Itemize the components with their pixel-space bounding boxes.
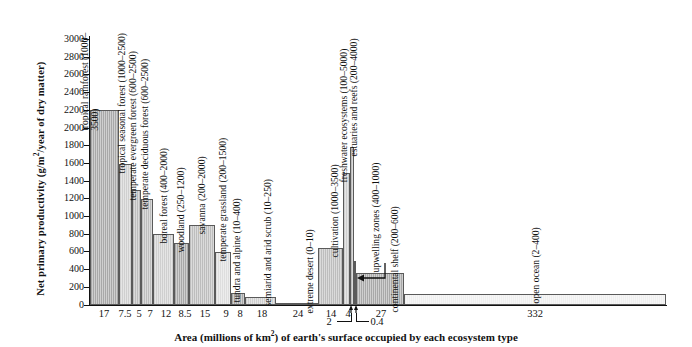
bar-label-tropical-seasonal-forest: tropical seasonal forest (1000–2500) — [117, 33, 127, 173]
x-tick-label-18: 18 — [257, 308, 268, 320]
x-axis-title-tail: ) of earth's surface occupied by each ec… — [275, 331, 518, 343]
bar-label-upwelling-zones: upwelling zones (400–1000) — [371, 163, 381, 273]
bar-temperate-deciduous-forest[interactable] — [141, 199, 153, 305]
callout-leader-horizontal-0-4 — [356, 321, 369, 322]
bar-label-tropical-rainforest: tropical rainforest (1000–3500) — [80, 16, 101, 131]
callout-leader-horizontal-2 — [337, 321, 352, 322]
y-tick-1600: 1600 — [44, 158, 84, 168]
x-tick-label-8: 8 — [237, 308, 242, 320]
bar-label-temperate-evergreen-forest: temperate evergreen forest (600–2500) — [128, 51, 138, 200]
y-axis-title-superscript: 2 — [32, 152, 41, 156]
y-tick-800: 800 — [44, 229, 84, 239]
y-tick-1000: 1000 — [44, 211, 84, 221]
bar-label-boreal-forest: boreal forest (400–2000) — [159, 148, 169, 243]
x-tick-label-17: 17 — [99, 308, 110, 320]
bar-label-continental-shelf: continental shelf (200–600) — [390, 206, 400, 312]
bar-label-woodland: woodland (250–1200) — [176, 167, 186, 252]
x-tick-label-9: 9 — [223, 308, 228, 320]
bar-label-estuaries-and-reefs: estuaries and reefs (200–4000) — [349, 38, 359, 156]
x-axis-title-main: Area (millions of km — [174, 331, 271, 343]
y-tick-2600: 2600 — [44, 69, 84, 79]
bar-freshwater-ecosystems[interactable] — [343, 173, 350, 305]
y-tick-2400: 2400 — [44, 87, 84, 97]
y-tick-1400: 1400 — [44, 176, 84, 186]
x-tick-label-15: 15 — [200, 308, 211, 320]
x-axis-line — [89, 305, 667, 306]
bar-savanna[interactable] — [189, 225, 215, 305]
bar-label-semiarid-and-arid-scrub: semiarid and arid scrub (10–250) — [263, 179, 273, 306]
x-tick-label-12: 12 — [161, 308, 172, 320]
x-tick-label-332: 332 — [527, 308, 543, 320]
bar-label-temperate-grassland: temperate grassland (200–1500) — [218, 138, 228, 262]
callout-label-0-4: 0.4 — [370, 316, 383, 327]
bar-label-savanna: savanna (200–2000) — [197, 156, 207, 234]
upwelling-zones-pointer-arrow — [355, 262, 387, 286]
y-tick-1200: 1200 — [44, 193, 84, 203]
y-tick-200: 200 — [44, 282, 84, 292]
y-tick-2000: 2000 — [44, 123, 84, 133]
x-tick-label-5: 5 — [136, 308, 141, 320]
x-axis-title: Area (millions of km2) of earth's surfac… — [0, 329, 692, 343]
y-tick-600: 600 — [44, 246, 84, 256]
bar-label-open-ocean: open ocean (2–400) — [531, 227, 541, 303]
x-tick-label-24: 24 — [293, 308, 304, 320]
x-tick-label-8-5: 8.5 — [178, 308, 191, 320]
bar-label-extreme-desert: extreme desert (0–10) — [305, 229, 315, 313]
y-tick-3000: 3000 — [44, 34, 84, 44]
callout-arrow-0-4 — [354, 305, 358, 313]
bar-label-temperate-deciduous-forest: temperate deciduous forest (600–2500) — [140, 59, 150, 210]
y-tick-1800: 1800 — [44, 140, 84, 150]
x-tick-label-7: 7 — [147, 308, 152, 320]
y-tick-2200: 2200 — [44, 105, 84, 115]
y-tick-2800: 2800 — [44, 52, 84, 62]
bar-boreal-forest[interactable] — [153, 234, 174, 305]
callout-arrow-2 — [349, 305, 353, 313]
bar-chart: Net primary productivity (g/m2/year of d… — [0, 0, 692, 347]
y-tick-400: 400 — [44, 264, 84, 274]
y-tick-0: 0 — [44, 300, 84, 310]
x-tick-label-7-5: 7.5 — [118, 308, 131, 320]
bar-label-tundra-and-alpine: tundra and alpine (10–400) — [232, 198, 242, 302]
callout-label-2: 2 — [326, 316, 331, 327]
